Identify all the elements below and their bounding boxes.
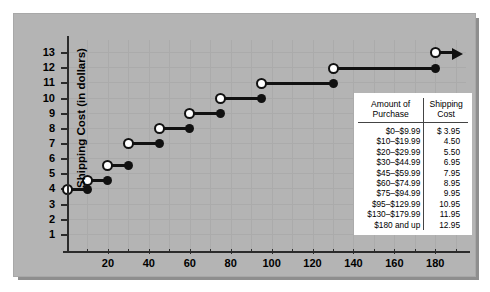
x-axis-tick-label: 40 [129, 257, 169, 269]
gridline-vertical [210, 40, 211, 249]
x-axis-tick-label: 60 [170, 257, 210, 269]
x-axis-tick-label: 80 [211, 257, 251, 269]
step-endpoint-open [123, 138, 134, 149]
table-cell-amount: $30–$44.99 [358, 157, 424, 167]
table-cell-cost: $ 3.95 [424, 123, 468, 137]
table-row: $130–$179.9911.95 [358, 209, 468, 219]
y-axis-tick-label: 3 [33, 199, 55, 209]
step-segment [220, 97, 261, 100]
gridline-vertical [190, 40, 191, 249]
y-axis-tick-label: 11 [33, 77, 55, 87]
gridline-vertical [292, 40, 293, 249]
table-row: $20–$29.995.50 [358, 147, 468, 157]
step-endpoint-open [430, 47, 441, 58]
table-row: $60–$74.998.95 [358, 178, 468, 188]
step-segment [333, 67, 435, 70]
step-endpoint-open [184, 108, 195, 119]
table-row: $45–$59.997.95 [358, 168, 468, 178]
x-axis-tick-label: 100 [252, 257, 292, 269]
table-cell-cost: 10.95 [424, 199, 468, 209]
table-row: $95–$129.9910.95 [358, 199, 468, 209]
gridline-horizontal [67, 52, 466, 53]
x-axis-tick-label: 20 [88, 257, 128, 269]
table-cell-cost: 11.95 [424, 209, 468, 219]
y-axis-tick-label: 7 [33, 138, 55, 148]
gridline-vertical [108, 40, 109, 249]
y-axis-tick-label: 6 [33, 153, 55, 163]
table-cell-amount: $10–$19.99 [358, 136, 424, 146]
step-endpoint-open [328, 63, 339, 74]
step-endpoint-closed [257, 94, 266, 103]
y-axis-tick-label: 10 [33, 93, 55, 103]
x-axis-line [63, 251, 470, 253]
table-header-cost: Shipping Cost [424, 98, 468, 123]
table-cell-cost: 7.95 [424, 168, 468, 178]
table-cell-cost: 8.95 [424, 178, 468, 188]
y-axis-title: Shipping Cost (in dollars) [75, 48, 87, 188]
figure-root: 12345678910111213 2040608010012014016018… [0, 0, 490, 292]
x-axis-tick-label: 180 [415, 257, 455, 269]
step-endpoint-closed [155, 139, 164, 148]
step-endpoint-open [256, 78, 267, 89]
table-body: $0–$9.99$ 3.95$10–$19.994.50$20–$29.995.… [358, 123, 468, 231]
table-row: $30–$44.996.95 [358, 157, 468, 167]
arrow-head-icon [452, 48, 463, 60]
gridline-vertical [251, 40, 252, 249]
y-axis-tick-label: 13 [33, 47, 55, 57]
table-cell-amount: $45–$59.99 [358, 168, 424, 178]
gridline-vertical [313, 40, 314, 249]
table-cell-cost: 4.50 [424, 136, 468, 146]
step-endpoint-closed [431, 64, 440, 73]
table-cell-amount: $60–$74.99 [358, 178, 424, 188]
step-endpoint-closed [329, 79, 338, 88]
y-axis-tick-label: 9 [33, 108, 55, 118]
step-endpoint-open [102, 160, 113, 171]
table-row: $75–$94.999.95 [358, 188, 468, 198]
step-segment [261, 82, 333, 85]
step-endpoint-closed [124, 161, 133, 170]
x-axis-tick-label: 160 [374, 257, 414, 269]
y-axis-tick-label: 2 [33, 214, 55, 224]
table-row: $0–$9.99$ 3.95 [358, 123, 468, 137]
y-axis-tick-label: 1 [33, 229, 55, 239]
table-row: $10–$19.994.50 [358, 136, 468, 146]
shipping-cost-table: Amount of Purchase Shipping Cost $0–$9.9… [354, 93, 472, 235]
y-axis-tick-label: 4 [33, 183, 55, 193]
table-cell-amount: $0–$9.99 [358, 123, 424, 137]
table-cell-cost: 6.95 [424, 157, 468, 167]
table-cell-amount: $75–$94.99 [358, 188, 424, 198]
gridline-vertical [87, 40, 88, 249]
gridline-vertical [272, 40, 273, 249]
step-endpoint-closed [216, 109, 225, 118]
gridline-vertical [231, 40, 232, 249]
y-axis-tick-label: 5 [33, 168, 55, 178]
x-axis-tick-label: 140 [333, 257, 373, 269]
y-axis-tick-label: 8 [33, 123, 55, 133]
table-header-amount: Amount of Purchase [358, 98, 424, 123]
table-cell-amount: $20–$29.99 [358, 147, 424, 157]
step-endpoint-closed [103, 176, 112, 185]
chart-panel: 12345678910111213 2040608010012014016018… [13, 13, 476, 277]
y-axis-tick-label: 12 [33, 62, 55, 72]
step-endpoint-open [215, 93, 226, 104]
table-row: $180 and up12.95 [358, 220, 468, 230]
x-axis-tick-label: 120 [293, 257, 333, 269]
step-endpoint-open [154, 123, 165, 134]
table-cell-cost: 12.95 [424, 220, 468, 230]
table-cell-amount: $95–$129.99 [358, 199, 424, 209]
step-endpoint-closed [185, 124, 194, 133]
y-axis-line [67, 36, 69, 253]
gridline-vertical [169, 40, 170, 249]
table-cell-amount: $130–$179.99 [358, 209, 424, 219]
table-cell-cost: 9.95 [424, 188, 468, 198]
table-cell-cost: 5.50 [424, 147, 468, 157]
table-cell-amount: $180 and up [358, 220, 424, 230]
